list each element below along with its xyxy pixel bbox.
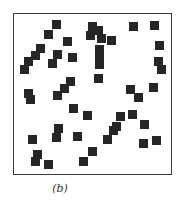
square — [109, 126, 118, 135]
square — [150, 21, 159, 30]
square — [52, 133, 61, 142]
square — [95, 45, 104, 54]
square — [68, 53, 77, 62]
square — [53, 50, 62, 59]
square — [157, 65, 166, 74]
square — [79, 157, 88, 166]
square — [88, 147, 97, 156]
square — [97, 34, 106, 43]
square — [20, 65, 29, 74]
square — [128, 110, 137, 119]
square — [69, 104, 78, 113]
square — [116, 112, 125, 121]
square — [95, 60, 104, 69]
square — [52, 20, 61, 29]
square — [134, 93, 143, 102]
square — [63, 37, 72, 46]
square — [83, 111, 92, 120]
square — [152, 136, 161, 145]
square — [54, 124, 63, 133]
square — [73, 132, 82, 141]
square — [44, 30, 53, 39]
square — [48, 59, 57, 68]
square — [140, 120, 149, 129]
square — [129, 22, 138, 31]
square — [53, 91, 62, 100]
square — [107, 36, 116, 45]
square — [94, 74, 103, 83]
square — [44, 160, 53, 169]
square — [26, 95, 35, 104]
square — [149, 83, 158, 92]
figure-caption: (b) — [0, 182, 120, 195]
square — [103, 135, 112, 144]
square — [86, 31, 95, 40]
square — [155, 41, 164, 50]
square — [139, 139, 148, 148]
square — [28, 135, 37, 144]
square — [31, 157, 40, 166]
